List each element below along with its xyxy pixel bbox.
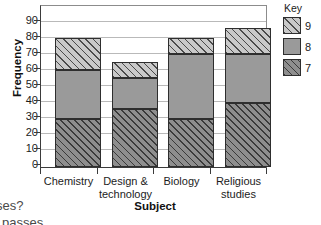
legend-swatch-8-icon: [283, 38, 301, 55]
x-axis-tick-4: [266, 168, 267, 174]
x-axis-tick-0: [40, 168, 41, 174]
page-text-fragment-2: passes: [2, 215, 43, 225]
legend-title: Key: [284, 2, 321, 14]
stacked-bar-chart-figure: Frequency 90 80 70 60 50 40 30 20 10 0: [0, 0, 321, 225]
bar-segment-biology-8[interactable]: [168, 54, 214, 118]
bar-segment-chemistry-8[interactable]: [55, 70, 101, 118]
bar-segment-chemistry-9[interactable]: [55, 38, 101, 70]
x-axis-category-religious-studies-line1: Religious: [201, 175, 276, 188]
bar-segment-biology-7[interactable]: [168, 119, 214, 167]
x-axis-tick-1: [97, 168, 98, 174]
legend-label-7: 7: [305, 62, 311, 74]
bar-design-technology[interactable]: [112, 62, 158, 167]
legend-swatch-7-icon: [283, 59, 301, 76]
legend-label-9: 9: [305, 20, 311, 32]
bar-segment-design-technology-8[interactable]: [112, 78, 158, 109]
bar-segment-religious-studies-9[interactable]: [225, 28, 271, 54]
x-axis-category-religious-studies: Religious studies: [201, 175, 276, 200]
bar-chemistry[interactable]: [55, 38, 101, 167]
legend-item-9[interactable]: 9: [278, 17, 321, 34]
x-axis-category-religious-studies-line2: studies: [201, 188, 276, 201]
legend-item-8[interactable]: 8: [278, 38, 321, 55]
bar-segment-biology-9[interactable]: [168, 38, 214, 54]
bar-segment-religious-studies-7[interactable]: [225, 103, 271, 167]
bar-religious-studies[interactable]: [225, 29, 271, 168]
bar-segment-chemistry-7[interactable]: [55, 119, 101, 167]
x-axis-tick-3: [210, 168, 211, 174]
legend-swatch-9-icon: [283, 17, 301, 34]
gridline-90: [41, 21, 266, 22]
page-text-fragment-1: ses?: [0, 198, 23, 213]
legend-label-8: 8: [305, 41, 311, 53]
x-axis-category-design-technology-line2: technology: [88, 188, 163, 201]
bar-biology[interactable]: [168, 38, 214, 167]
bar-segment-religious-studies-8[interactable]: [225, 54, 271, 102]
x-axis-title: Subject: [110, 200, 200, 212]
plot-area: [40, 5, 267, 168]
legend-item-7[interactable]: 7: [278, 59, 321, 76]
bar-segment-design-technology-7[interactable]: [112, 109, 158, 167]
legend: Key 9 8 7: [278, 2, 321, 80]
bar-segment-design-technology-9[interactable]: [112, 62, 158, 78]
x-axis-tick-2: [153, 168, 154, 174]
